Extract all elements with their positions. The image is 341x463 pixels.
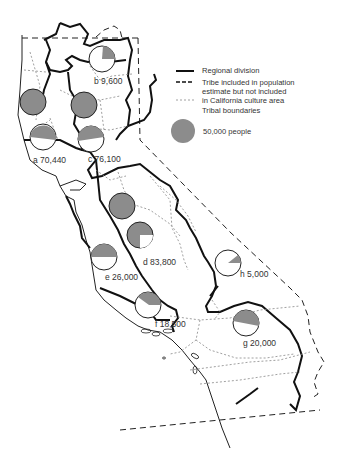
pie-d-north (109, 193, 135, 219)
pie-f (135, 292, 161, 318)
legend-tribe-included-2: estimate but not included (202, 87, 286, 96)
legend-tribal-boundaries: Tribal boundaries (202, 106, 260, 115)
pie-a-north (20, 89, 46, 115)
region-f-label: f 18,500 (155, 320, 186, 329)
california-population-map (0, 0, 341, 463)
pie-g (233, 310, 259, 336)
pie-a (30, 124, 56, 150)
region-h-label: h 5,000 (240, 270, 268, 279)
legend-regional-division: Regional division (202, 66, 259, 75)
legend-scale-circle: 50,000 people (203, 127, 251, 136)
pie-h (215, 250, 241, 276)
pie-c-north (71, 92, 97, 118)
pie-c (78, 126, 104, 152)
channel-islands (141, 329, 199, 374)
region-g-label: g 20,000 (243, 339, 276, 348)
pie-d (127, 222, 153, 248)
pie-e (91, 244, 117, 270)
region-d-label: d 83,800 (143, 258, 176, 267)
region-e-label: e 26,000 (105, 273, 138, 282)
pie-b (89, 46, 115, 72)
legend-symbols (171, 71, 195, 143)
legend-tribe-included-1: Tribe included in population (202, 78, 295, 87)
region-b-label: b 9,600 (94, 77, 122, 86)
region-c-label: c 76,100 (88, 155, 121, 164)
region-a-label: a 70,440 (33, 156, 66, 165)
legend-tribe-included-3: in California culture area (202, 96, 284, 105)
